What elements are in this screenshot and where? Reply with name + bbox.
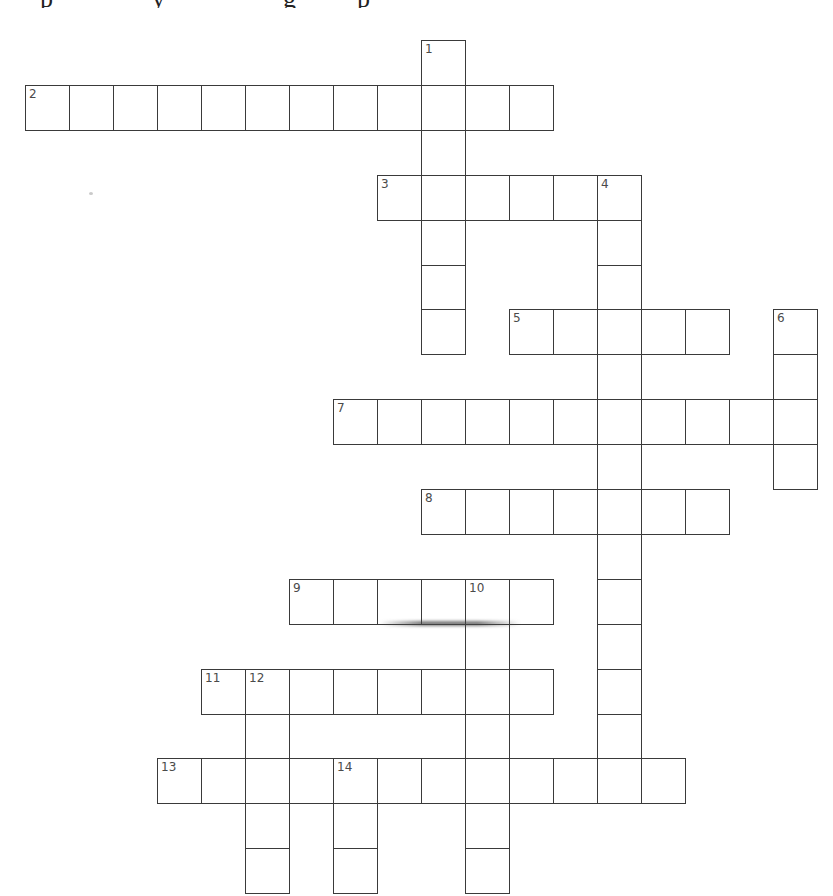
letter-input[interactable] (510, 759, 553, 803)
crossword-cell[interactable] (113, 85, 158, 131)
letter-input[interactable] (466, 86, 509, 130)
letter-input[interactable] (466, 490, 509, 534)
crossword-cell[interactable] (553, 758, 598, 804)
crossword-cell[interactable] (685, 309, 730, 355)
crossword-cell[interactable]: 13 (157, 758, 202, 804)
crossword-cell[interactable] (773, 354, 818, 400)
letter-input[interactable] (422, 266, 465, 310)
crossword-cell[interactable] (421, 265, 466, 311)
crossword-cell[interactable] (597, 534, 642, 580)
crossword-cell[interactable]: 10 (465, 579, 510, 625)
crossword-cell[interactable]: 5 (509, 309, 554, 355)
letter-input[interactable] (378, 176, 421, 220)
crossword-cell[interactable] (421, 309, 466, 355)
crossword-cell[interactable] (509, 85, 554, 131)
letter-input[interactable] (158, 86, 201, 130)
letter-input[interactable] (598, 221, 641, 265)
letter-input[interactable] (598, 445, 641, 489)
letter-input[interactable] (422, 400, 465, 444)
letter-input[interactable] (378, 759, 421, 803)
letter-input[interactable] (290, 86, 333, 130)
crossword-cell[interactable]: 9 (289, 579, 334, 625)
crossword-cell[interactable] (597, 579, 642, 625)
crossword-cell[interactable] (377, 85, 422, 131)
letter-input[interactable] (554, 176, 597, 220)
letter-input[interactable] (554, 759, 597, 803)
letter-input[interactable] (70, 86, 113, 130)
crossword-cell[interactable] (465, 175, 510, 221)
crossword-cell[interactable] (597, 624, 642, 670)
crossword-cell[interactable] (333, 669, 378, 715)
crossword-cell[interactable] (465, 803, 510, 849)
letter-input[interactable] (554, 310, 597, 354)
letter-input[interactable] (246, 86, 289, 130)
crossword-cell[interactable] (465, 399, 510, 445)
crossword-cell[interactable] (245, 714, 290, 760)
letter-input[interactable] (422, 759, 465, 803)
crossword-cell[interactable] (729, 399, 774, 445)
letter-input[interactable] (202, 759, 245, 803)
letter-input[interactable] (202, 86, 245, 130)
letter-input[interactable] (598, 535, 641, 579)
letter-input[interactable] (334, 759, 377, 803)
crossword-cell[interactable] (553, 309, 598, 355)
letter-input[interactable] (334, 670, 377, 714)
crossword-cell[interactable]: 4 (597, 175, 642, 221)
crossword-cell[interactable] (421, 175, 466, 221)
letter-input[interactable] (26, 86, 69, 130)
letter-input[interactable] (598, 176, 641, 220)
letter-input[interactable] (466, 176, 509, 220)
letter-input[interactable] (158, 759, 201, 803)
letter-input[interactable] (598, 310, 641, 354)
letter-input[interactable] (114, 86, 157, 130)
crossword-cell[interactable]: 6 (773, 309, 818, 355)
letter-input[interactable] (422, 580, 465, 624)
letter-input[interactable] (378, 86, 421, 130)
letter-input[interactable] (642, 490, 685, 534)
crossword-cell[interactable] (421, 669, 466, 715)
letter-input[interactable] (466, 400, 509, 444)
letter-input[interactable] (686, 490, 729, 534)
letter-input[interactable] (554, 400, 597, 444)
crossword-cell[interactable] (509, 758, 554, 804)
letter-input[interactable] (510, 670, 553, 714)
letter-input[interactable] (598, 490, 641, 534)
crossword-cell[interactable] (597, 714, 642, 760)
letter-input[interactable] (246, 670, 289, 714)
crossword-cell[interactable] (465, 714, 510, 760)
letter-input[interactable] (554, 490, 597, 534)
letter-input[interactable] (510, 580, 553, 624)
crossword-cell[interactable] (597, 758, 642, 804)
crossword-cell[interactable] (509, 579, 554, 625)
letter-input[interactable] (422, 176, 465, 220)
crossword-cell[interactable] (553, 399, 598, 445)
crossword-cell[interactable] (377, 669, 422, 715)
crossword-cell[interactable] (685, 489, 730, 535)
crossword-cell[interactable] (201, 85, 246, 131)
crossword-cell[interactable]: 11 (201, 669, 246, 715)
letter-input[interactable] (466, 849, 509, 893)
letter-input[interactable] (774, 310, 817, 354)
letter-input[interactable] (246, 849, 289, 893)
letter-input[interactable] (686, 400, 729, 444)
crossword-cell[interactable] (465, 624, 510, 670)
letter-input[interactable] (334, 86, 377, 130)
letter-input[interactable] (510, 86, 553, 130)
letter-input[interactable] (598, 670, 641, 714)
crossword-cell[interactable]: 12 (245, 669, 290, 715)
crossword-cell[interactable] (157, 85, 202, 131)
crossword-cell[interactable] (553, 489, 598, 535)
crossword-cell[interactable] (597, 265, 642, 311)
crossword-cell[interactable] (245, 758, 290, 804)
letter-input[interactable] (598, 625, 641, 669)
crossword-cell[interactable] (421, 130, 466, 176)
letter-input[interactable] (334, 400, 377, 444)
crossword-cell[interactable] (421, 85, 466, 131)
letter-input[interactable] (730, 400, 773, 444)
letter-input[interactable] (290, 759, 333, 803)
crossword-cell[interactable] (597, 220, 642, 266)
crossword-cell[interactable] (421, 758, 466, 804)
letter-input[interactable] (598, 580, 641, 624)
crossword-cell[interactable] (509, 669, 554, 715)
crossword-cell[interactable]: 3 (377, 175, 422, 221)
